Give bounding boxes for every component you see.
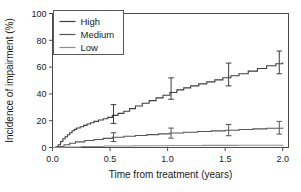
y-axis-ticks: 020406080100 <box>31 9 52 153</box>
series-lines <box>53 62 283 147</box>
y-tick-label: 40 <box>36 89 46 99</box>
chart-legend: HighMediumLow <box>54 11 124 55</box>
y-tick-label: 80 <box>36 36 46 46</box>
legend-label-medium: Medium <box>81 29 115 40</box>
legend-label-low: Low <box>81 42 99 53</box>
error-bars <box>111 51 282 141</box>
y-axis-title: Incidence of impairment (%) <box>4 18 15 143</box>
x-axis-ticks: 0.00.51.01.52.0 <box>46 148 289 164</box>
legend-label-high: High <box>81 16 101 27</box>
x-tick-label: 0.5 <box>104 154 117 164</box>
incidence-line-chart: 020406080100 0.00.51.01.52.0 HighMediumL… <box>0 0 301 192</box>
x-tick-label: 0.0 <box>46 154 59 164</box>
series-line-high <box>53 62 283 147</box>
y-tick-label: 60 <box>36 62 46 72</box>
x-tick-label: 1.0 <box>161 154 174 164</box>
x-tick-label: 2.0 <box>276 154 289 164</box>
y-tick-label: 100 <box>31 9 46 19</box>
x-tick-label: 1.5 <box>219 154 232 164</box>
error-bar-high <box>276 51 282 74</box>
chart-figure: 020406080100 0.00.51.01.52.0 HighMediumL… <box>0 0 301 192</box>
series-line-medium <box>53 127 283 147</box>
error-bar-high <box>226 63 232 86</box>
x-axis-title: Time from treatment (years) <box>109 169 233 180</box>
y-tick-label: 20 <box>36 116 46 126</box>
error-bar-high <box>168 78 174 99</box>
y-tick-label: 0 <box>41 143 46 153</box>
error-bar-high <box>111 105 117 124</box>
